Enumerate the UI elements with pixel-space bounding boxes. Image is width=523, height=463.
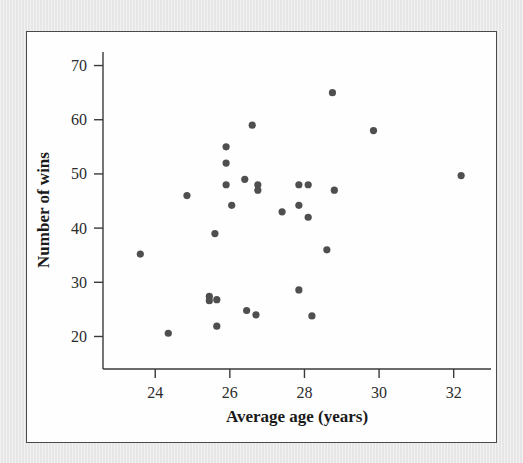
y-tick-label: 70 (71, 57, 87, 74)
x-tick-label: 28 (296, 384, 312, 401)
x-tick-label: 30 (371, 384, 387, 401)
data-point (323, 246, 330, 253)
figure-root: 203040506070 2426283032 Average age (yea… (0, 0, 523, 463)
data-point (254, 187, 261, 194)
data-point (223, 181, 230, 188)
data-point (223, 143, 230, 150)
scatter-plot-svg: 203040506070 2426283032 Average age (yea… (27, 32, 495, 441)
x-tick-label: 32 (446, 384, 462, 401)
data-point (295, 286, 302, 293)
data-point (249, 122, 256, 129)
x-tick-label: 26 (222, 384, 238, 401)
data-point (243, 307, 250, 314)
data-point (211, 230, 218, 237)
data-point (295, 181, 302, 188)
data-point (252, 311, 259, 318)
y-axis-tick-labels: 203040506070 (71, 57, 87, 345)
data-points-group (137, 89, 465, 337)
data-point (213, 296, 220, 303)
data-point (308, 312, 315, 319)
data-point (305, 214, 312, 221)
data-point (228, 202, 235, 209)
y-axis-ticks (94, 66, 103, 337)
y-tick-label: 20 (71, 328, 87, 345)
y-tick-label: 30 (71, 274, 87, 291)
data-point (223, 159, 230, 166)
y-axis-title: Number of wins (34, 152, 53, 268)
data-point (458, 172, 465, 179)
x-axis-title: Average age (years) (226, 407, 368, 426)
data-point (183, 192, 190, 199)
data-point (241, 176, 248, 183)
data-point (206, 297, 213, 304)
data-point (213, 323, 220, 330)
y-tick-label: 40 (71, 220, 87, 237)
data-point (137, 251, 144, 258)
data-point (278, 208, 285, 215)
x-axis-tick-labels: 2426283032 (147, 384, 461, 401)
x-tick-label: 24 (147, 384, 163, 401)
y-tick-label: 60 (71, 111, 87, 128)
data-point (295, 202, 302, 209)
data-point (329, 89, 336, 96)
data-point (331, 187, 338, 194)
x-axis-ticks (155, 369, 453, 378)
data-point (165, 330, 172, 337)
data-point (370, 127, 377, 134)
data-point (305, 181, 312, 188)
y-tick-label: 50 (71, 165, 87, 182)
scatter-plot-panel: 203040506070 2426283032 Average age (yea… (26, 31, 497, 443)
